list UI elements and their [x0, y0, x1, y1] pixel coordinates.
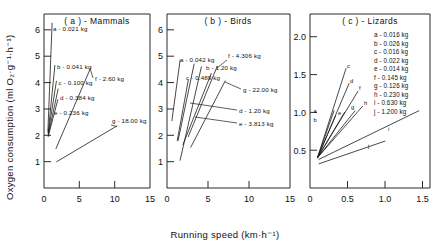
panel-c-legend-item-a: a - 0.016 kg — [374, 31, 409, 39]
panel-c-x-ticks: 0 0.5 1.0 1.5 — [307, 181, 428, 204]
panel-b-xtick-10: 10 — [244, 194, 254, 204]
panel-c-frame — [310, 14, 430, 188]
panel-a-label-d: d - 0.384 kg — [60, 94, 95, 101]
x-axis-label-text: Running speed (km·h⁻¹) — [171, 229, 280, 240]
panel-c-ytick-15: 1.5 — [293, 70, 306, 80]
panel-c-ytick-20: 2.0 — [293, 32, 306, 42]
panel-a-leader-f — [91, 70, 93, 78]
panel-b-xtick-5: 5 — [205, 194, 210, 204]
figure-canvas: Oxygen consumption (ml O₂·g⁻¹·h⁻¹) Runni… — [0, 0, 440, 243]
panel-c-legend-item-i: i - 0.630 kg — [374, 99, 407, 107]
panel-a-ytick-4: 4 — [35, 78, 40, 88]
panel-c-xtick-15: 1.5 — [416, 194, 429, 204]
panel-c-ytick-10: 1.0 — [293, 108, 306, 118]
panel-b-xtick-0: 0 — [164, 194, 169, 204]
panel-a-ytick-3: 3 — [35, 104, 40, 114]
panel-c-ptlabel-a: a — [314, 108, 318, 114]
panel-c-ptlabel-b: b — [314, 117, 317, 123]
panel-a-label-a: a - 0.021 kg — [53, 25, 88, 32]
panel-a-leader-g — [111, 125, 117, 127]
panel-c-legend-item-d: d - 0.022 kg — [374, 57, 409, 65]
panel-b-ytick-3: 3 — [158, 104, 163, 114]
panel-c-ptlabel-j: j — [367, 143, 369, 149]
panel-c-ptlabel-e: e — [338, 110, 341, 116]
panel-a-curve-labels: a - 0.021 kg b - 0.041 kg c - 0.100 kg d… — [53, 25, 147, 127]
panel-a-label-f: f - 2.60 kg — [95, 75, 125, 82]
panel-a-label-g: g - 18.00 kg — [112, 117, 147, 124]
panel-c-legend-item-h: h - 0.230 kg — [374, 91, 409, 99]
panel-b-frame — [167, 14, 290, 188]
panel-c-legend-item-g: g - 0.126 kg — [374, 82, 409, 90]
panel-b-label-e: e - 3.813 kg — [239, 120, 274, 127]
panel-c-legend-item-b: b - 0.026 kg — [374, 40, 409, 48]
y-axis-label: Oxygen consumption (ml O₂·g⁻¹·h⁻¹) — [4, 35, 15, 200]
panel-c-ptlabel-i: i — [388, 126, 389, 132]
panel-c-title: ( c ) - Lizards — [342, 16, 398, 26]
panel-c-line-f — [318, 91, 359, 158]
panel-c-legend: a - 0.016 kg b - 0.026 kg c - 0.016 kg d… — [373, 31, 409, 116]
panel-c-legend-item-c: c - 0.016 kg — [374, 48, 408, 56]
panel-b-y-ticks: 6 5 4 3 2 1 — [158, 25, 174, 167]
panel-b-ytick-1: 1 — [158, 157, 163, 167]
panel-c-line-c — [318, 69, 347, 158]
panel-b-label-b: b - 1.20 kg — [206, 64, 237, 71]
panel-b-title: ( b ) - Birds — [204, 16, 251, 26]
panel-a-mammals: ( a ) - Mammals 6 5 4 3 2 1 0 5 10 15 — [35, 14, 155, 204]
panel-c-legend-item-j: j - 1.200 kg — [373, 108, 407, 116]
panel-a-ytick-5: 5 — [35, 51, 40, 61]
panel-b-xtick-15: 15 — [285, 194, 295, 204]
panel-a-y-ticks: 6 5 4 3 2 1 — [35, 25, 51, 167]
panel-c-lizards: ( c ) - Lizards 2.0 1.5 1.0 0.5 0 0.5 1.… — [293, 14, 430, 204]
panel-b-birds: ( b ) - Birds 6 5 4 3 2 1 0 5 10 15 — [158, 14, 295, 204]
panel-b-leader-e — [195, 117, 237, 123]
panel-b-ytick-5: 5 — [158, 51, 163, 61]
panel-c-y-ticks: 2.0 1.5 1.0 0.5 — [293, 32, 317, 156]
panel-a-xtick-10: 10 — [110, 194, 120, 204]
panel-a-frame — [44, 14, 150, 188]
panel-c-ptlabel-c: c — [347, 63, 350, 69]
panel-b-line-a — [172, 60, 180, 120]
panel-c-xtick-10: 1.0 — [379, 194, 392, 204]
panel-c-xtick-05: 0.5 — [341, 194, 354, 204]
panel-a-label-b: b - 0.041 kg — [57, 63, 92, 70]
panel-b-label-c: c - 0.489 kg — [186, 74, 221, 81]
panel-a-x-ticks: 0 5 10 15 — [41, 181, 155, 204]
panel-a-xtick-0: 0 — [41, 194, 46, 204]
panel-c-ytick-05: 0.5 — [293, 146, 306, 156]
panel-c-ptlabel-f: f — [359, 85, 361, 91]
panel-b-label-g: g - 22.00 kg — [243, 86, 278, 93]
panel-b-ytick-4: 4 — [158, 78, 163, 88]
panel-a-label-c: c - 0.100 kg — [59, 79, 94, 86]
panel-a-line-g — [57, 126, 117, 162]
panel-c-ptlabel-d: d — [350, 78, 353, 84]
panel-b-label-f: f - 4.306 kg — [228, 52, 261, 59]
panel-c-xtick-0: 0 — [307, 194, 312, 204]
panel-a-label-e: e - 0.236 kg — [54, 109, 89, 116]
panel-a-ytick-2: 2 — [35, 131, 40, 141]
panel-c-legend-item-f: f - 0.145 kg — [374, 74, 407, 82]
panel-a-ytick-1: 1 — [35, 157, 40, 167]
panel-a-ytick-6: 6 — [35, 25, 40, 35]
panel-c-ptlabel-h: h — [364, 100, 367, 106]
panel-b-leader-g — [225, 82, 241, 89]
panel-b-label-a: a - 0.042 kg — [180, 56, 215, 63]
y-axis-label-text: Oxygen consumption (ml O₂·g⁻¹·h⁻¹) — [4, 35, 15, 200]
panel-b-x-ticks: 0 5 10 15 — [164, 181, 295, 204]
panel-b-label-d: d - 1.20 kg — [239, 107, 270, 114]
panel-c-legend-item-e: e - 0.014 kg — [374, 65, 409, 73]
panel-b-ytick-2: 2 — [158, 131, 163, 141]
panel-c-ptlabel-g: g — [351, 104, 354, 110]
panel-a-data-lines — [48, 23, 117, 162]
panel-a-xtick-15: 15 — [145, 194, 155, 204]
panel-b-ytick-6: 6 — [158, 25, 163, 35]
panel-a-xtick-5: 5 — [77, 194, 82, 204]
figure-oxygen-consumption-vs-running-speed: Oxygen consumption (ml O₂·g⁻¹·h⁻¹) Runni… — [0, 0, 440, 243]
